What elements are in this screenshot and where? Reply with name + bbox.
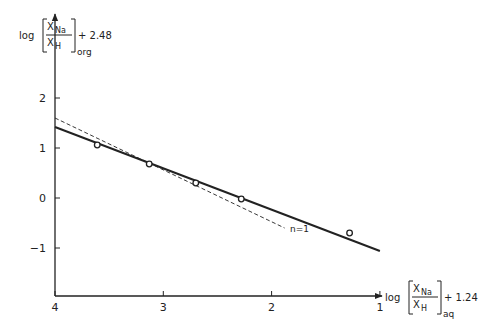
dashed-line-n1 bbox=[55, 118, 285, 228]
x-tick-label: 4 bbox=[52, 301, 59, 314]
y-tick-label: 1 bbox=[39, 142, 46, 155]
x-tick-label: 1 bbox=[376, 301, 383, 314]
x-axis-label-log: log bbox=[385, 292, 400, 303]
y-tick-label: −1 bbox=[30, 242, 46, 255]
y-axis-label-suffix: + 2.48 bbox=[78, 30, 112, 41]
x-axis-label-denominator-sub: H bbox=[421, 304, 427, 313]
x-axis-label-suffix: + 1.24 bbox=[444, 292, 478, 303]
y-axis-label-bracket-sub: org bbox=[77, 47, 92, 57]
data-point bbox=[238, 196, 244, 202]
chart: 210−14321logXNaXHorg+ 2.48logXNaXHaq+ 1.… bbox=[0, 0, 483, 333]
y-axis-label-denominator: X bbox=[47, 37, 54, 48]
y-tick-label: 2 bbox=[39, 92, 46, 105]
x-axis-label-bracket-sub: aq bbox=[443, 309, 454, 319]
data-point bbox=[193, 180, 199, 186]
data-point bbox=[94, 142, 100, 148]
data-point bbox=[146, 161, 152, 167]
y-axis-label-numerator-sub: Na bbox=[55, 26, 66, 35]
y-tick-label: 0 bbox=[39, 192, 46, 205]
x-axis-label-numerator-sub: Na bbox=[421, 288, 432, 297]
x-axis-label-numerator: X bbox=[413, 283, 420, 294]
x-tick-label: 2 bbox=[268, 301, 275, 314]
annotation-n1: n=1 bbox=[290, 224, 309, 234]
y-axis-label-log: log bbox=[19, 30, 34, 41]
x-axis-label-denominator: X bbox=[413, 299, 420, 310]
y-axis-label-denominator-sub: H bbox=[55, 42, 61, 51]
data-point bbox=[347, 230, 353, 236]
x-tick-label: 3 bbox=[160, 301, 167, 314]
fitted-solid-line bbox=[55, 127, 380, 251]
y-axis-label-numerator: X bbox=[47, 21, 54, 32]
